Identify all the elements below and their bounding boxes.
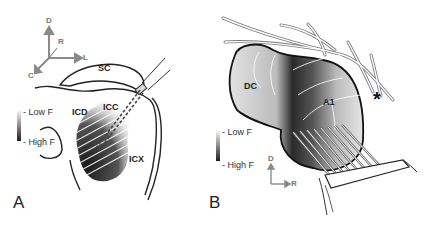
panel-letter-b: B [209, 194, 220, 211]
frequency-legend-bar [216, 131, 220, 161]
panel-a: D R L C SC ICD ICC ICX - Low F - High F … [0, 0, 213, 225]
region-label-icc: ICC [103, 103, 119, 112]
region-label-a1: A1 [323, 98, 335, 107]
axis-label-rostral: R [58, 38, 64, 46]
region-label-icd: ICD [72, 108, 88, 117]
region-label-icx: ICX [129, 155, 144, 164]
panel-letter-a: A [13, 194, 24, 211]
region-label-sc: SC [98, 64, 111, 73]
axis-label-caudal: C [28, 72, 34, 80]
axis-label-dorsal: D [46, 17, 52, 25]
legend-high-frequency: - High F [222, 161, 254, 170]
axis-label-dorsal: D [268, 155, 274, 163]
frequency-legend-bar [17, 111, 21, 141]
orientation-axes-icon [35, 27, 82, 73]
axis-label-rostral: R [291, 180, 297, 188]
panel-b: DC A1 * - Low F - High F D R B [213, 0, 427, 225]
legend-low-frequency: - Low F [23, 108, 53, 117]
legend-high-frequency: - High F [23, 138, 55, 147]
asterisk-marker: * [373, 89, 381, 109]
orientation-axes-icon [268, 164, 290, 187]
legend-low-frequency: - Low F [222, 128, 252, 137]
axis-label-lateral: L [83, 54, 88, 62]
auditory-cortex-diagram [213, 0, 427, 225]
region-label-dc: DC [244, 82, 257, 91]
